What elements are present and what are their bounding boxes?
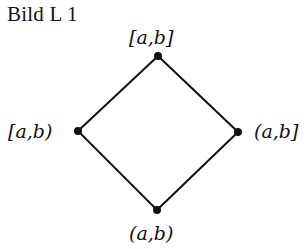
edge-right-bottom [157,132,238,210]
node-right [234,128,242,136]
label-text: (a,b) [129,222,173,244]
label-text: [a,b) [8,120,52,142]
label-text: [a,b] [129,26,173,48]
edges [78,56,238,210]
node-label-bottom: (a,b) [129,224,173,243]
edge-top-left [78,56,158,131]
edge-left-bottom [78,131,157,210]
label-text: (a,b] [254,120,298,142]
node-left [74,127,82,135]
node-label-right: (a,b] [254,122,298,141]
node-label-top: [a,b] [129,28,173,47]
edge-top-right [158,56,238,132]
node-bottom [153,206,161,214]
node-label-left: [a,b) [8,122,52,141]
nodes [74,52,242,214]
node-top [154,52,162,60]
